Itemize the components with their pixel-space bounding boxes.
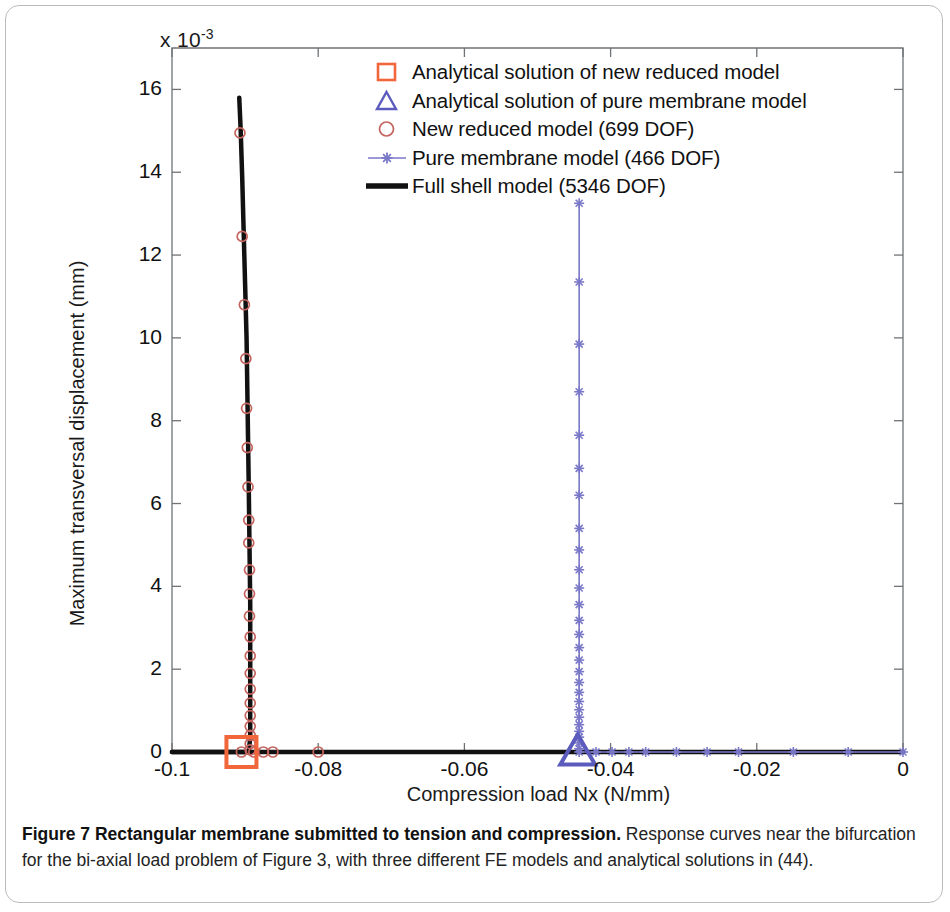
y-axis-title: Maximum transversal displacement (mm) (66, 234, 89, 654)
legend-item-label: Pure membrane model (466 DOF) (412, 146, 720, 170)
y-tick-label: 16 (102, 76, 162, 100)
y-tick-label: 14 (102, 159, 162, 183)
y-tick-label: 10 (102, 325, 162, 349)
y-tick-label: 8 (102, 408, 162, 432)
x-tick-label: -0.1 (112, 757, 232, 781)
plot-region: x 10-3 0246810121416 -0.1-0.08-0.06-0.04… (0, 0, 950, 812)
y-axis-tick-labels: 0246810121416 (100, 0, 162, 812)
legend-item-label: Analytical solution of pure membrane mod… (412, 89, 807, 113)
figure-caption: Figure 7 Rectangular membrane submitted … (22, 822, 922, 874)
chart-legend: Analytical solution of new reduced model… (366, 58, 836, 201)
line-star-marker (366, 145, 412, 171)
x-tick-label: 0 (843, 757, 950, 781)
legend-item-label: New reduced model (699 DOF) (412, 117, 694, 141)
legend-item[interactable]: Analytical solution of new reduced model (366, 58, 836, 87)
triangle-marker (366, 88, 412, 114)
y-tick-label: 12 (102, 242, 162, 266)
caption-title: Figure 7 Rectangular membrane submitted … (22, 824, 621, 844)
legend-item-label: Analytical solution of new reduced model (412, 60, 780, 84)
y-tick-label: 6 (102, 491, 162, 515)
y-tick-label: 2 (102, 656, 162, 680)
y-tick-label: 4 (102, 573, 162, 597)
thick-line-marker (366, 173, 412, 199)
x-tick-label: -0.08 (258, 757, 378, 781)
legend-item[interactable]: Analytical solution of pure membrane mod… (366, 87, 836, 116)
circle-marker (366, 116, 412, 142)
legend-item[interactable]: Full shell model (5346 DOF) (366, 172, 836, 201)
square-marker (366, 59, 412, 85)
x-tick-label: -0.02 (697, 757, 817, 781)
x-axis-title: Compression load Nx (N/mm) (172, 783, 905, 806)
x-tick-label: -0.06 (404, 757, 524, 781)
x-tick-label: -0.04 (551, 757, 671, 781)
legend-item[interactable]: New reduced model (699 DOF) (366, 115, 836, 144)
legend-item-label: Full shell model (5346 DOF) (412, 174, 666, 198)
chart-series (574, 198, 908, 757)
legend-item[interactable]: Pure membrane model (466 DOF) (366, 144, 836, 173)
